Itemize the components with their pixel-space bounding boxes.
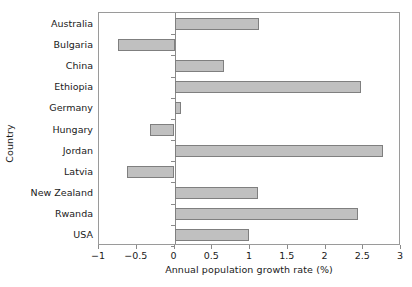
bar-usa [175, 229, 250, 241]
bar-new-zealand [175, 187, 258, 199]
y-tick-label-latvia: Latvia [64, 165, 93, 176]
y-tick-mark [171, 34, 175, 35]
y-tick-mark [171, 98, 175, 99]
y-tick-label-ethiopia: Ethiopia [54, 81, 93, 92]
x-tick-mark [325, 245, 326, 249]
x-tick-label: 1.5 [279, 250, 294, 261]
y-tick-label-china: China [66, 59, 93, 70]
y-tick-label-usa: USA [73, 229, 93, 240]
x-tick-label: −0.5 [124, 250, 147, 261]
bar-hungary [150, 124, 175, 136]
y-tick-mark [171, 140, 175, 141]
x-tick-label: 2 [321, 250, 327, 261]
x-tick-label: 0 [170, 250, 176, 261]
x-tick-label: 3 [397, 250, 403, 261]
x-tick-mark [98, 245, 99, 249]
x-tick-label: 0.5 [204, 250, 219, 261]
bars-container [99, 13, 399, 244]
y-tick-mark [171, 204, 175, 205]
x-tick-mark [362, 245, 363, 249]
y-axis-tick-labels: AustraliaBulgariaChinaEthiopiaGermanyHun… [0, 12, 93, 245]
x-tick-mark [400, 245, 401, 249]
y-tick-label-new-zealand: New Zealand [31, 187, 93, 198]
x-tick-mark [211, 245, 212, 249]
bar-china [175, 60, 225, 72]
x-tick-mark [136, 245, 137, 249]
y-tick-label-rwanda: Rwanda [55, 208, 93, 219]
y-tick-label-jordan: Jordan [63, 144, 93, 155]
y-tick-label-bulgaria: Bulgaria [54, 38, 93, 49]
bar-jordan [175, 145, 383, 157]
bar-australia [175, 18, 260, 30]
x-tick-mark [287, 245, 288, 249]
y-tick-mark [171, 77, 175, 78]
bar-latvia [127, 166, 175, 178]
y-tick-mark [171, 119, 175, 120]
x-axis-title: Annual population growth rate (%) [98, 264, 400, 275]
y-tick-label-hungary: Hungary [52, 123, 93, 134]
y-tick-mark [171, 55, 175, 56]
y-tick-label-germany: Germany [49, 102, 93, 113]
x-axis-ticks: −1−0.500.511.522.53 [98, 245, 400, 265]
bar-rwanda [175, 208, 358, 220]
x-tick-label: 1 [246, 250, 252, 261]
y-tick-mark [171, 161, 175, 162]
bar-bulgaria [118, 39, 175, 51]
bar-ethiopia [175, 81, 361, 93]
y-tick-mark [171, 182, 175, 183]
bar-germany [175, 102, 181, 114]
x-tick-mark [174, 245, 175, 249]
x-tick-mark [249, 245, 250, 249]
bar-chart: Country AustraliaBulgariaChinaEthiopiaGe… [0, 0, 412, 287]
x-tick-label: 2.5 [355, 250, 370, 261]
x-tick-label: −1 [91, 250, 105, 261]
y-tick-mark [171, 225, 175, 226]
y-tick-label-australia: Australia [51, 17, 93, 28]
plot-area [98, 12, 400, 245]
